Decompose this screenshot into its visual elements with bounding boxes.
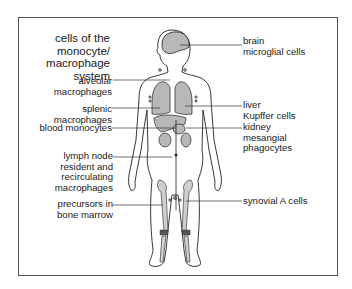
stomach-organ — [173, 124, 185, 134]
label-liver-kupffer-cells: liver Kupffer cells — [243, 100, 333, 121]
label-synovial-a-cells: synovial A cells — [243, 196, 335, 207]
left-lung — [152, 82, 170, 115]
spleen-organ — [159, 133, 171, 147]
label-kidney-mesangial-phagocytes: kidney mesangial phagocytes — [243, 122, 333, 154]
label-blood-monocytes: blood monocytes — [20, 123, 112, 134]
leg-bones — [158, 180, 193, 262]
kidney-organ — [181, 133, 191, 147]
label-lymph-node-macrophages: lymph node resident and recirculating ma… — [36, 151, 113, 193]
label-bone-marrow-precursors: precursors in bone marrow — [36, 199, 113, 220]
head-outline — [129, 30, 222, 266]
label-brain-microglial-cells: brain microglial cells — [243, 36, 333, 57]
brain-organ — [162, 32, 189, 54]
label-alveolar-macrophages: alveolar macrophages — [36, 76, 112, 97]
right-lung — [175, 82, 192, 115]
